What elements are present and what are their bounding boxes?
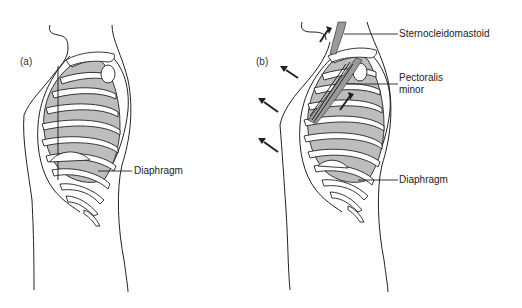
pectoralis-minor-label-line1: Pectoralis	[399, 72, 443, 83]
pectoralis-minor-label-line2: minor	[399, 84, 424, 95]
panel-b-figure	[258, 22, 398, 292]
panel-b-label: (b)	[256, 56, 268, 67]
diaphragm-label-a: Diaphragm	[134, 165, 183, 176]
panel-a-figure	[24, 25, 132, 292]
diaphragm-label-b: Diaphragm	[399, 174, 448, 185]
diagram-drawing	[0, 0, 522, 308]
sternocleidomastoid-muscle	[330, 22, 346, 54]
sternocleidomastoid-label: Sternocleidomastoid	[399, 28, 490, 39]
respiration-diagram: (a) (b) Diaphragm Sternocleidomastoid Pe…	[0, 0, 522, 308]
panel-a-label: (a)	[20, 56, 32, 67]
humerus-head	[101, 65, 115, 83]
